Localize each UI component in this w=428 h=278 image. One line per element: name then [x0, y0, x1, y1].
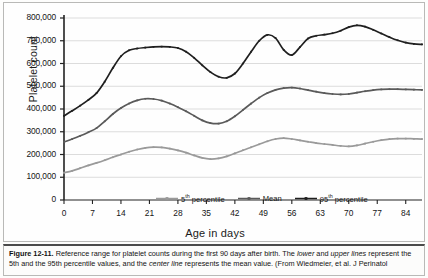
x-tick-label: 0 — [54, 208, 74, 218]
axis-lines — [64, 15, 422, 200]
legend-label: 95th percentile — [320, 193, 368, 204]
x-tick-label: 56 — [282, 208, 302, 218]
x-tick-label: 7 — [82, 208, 102, 218]
y-tick-label: 0 — [10, 194, 56, 204]
series-5th-percentile — [63, 137, 423, 173]
chart-legend: 5th percentileMean95th percentile — [156, 193, 368, 204]
x-tick-label: 84 — [396, 208, 416, 218]
x-tick-label: 42 — [225, 208, 245, 218]
x-tick-label: 28 — [168, 208, 188, 218]
legend-label: Mean — [263, 194, 282, 203]
gridlines — [64, 18, 422, 177]
figure-caption-box: Figure 12-11. Reference range for platel… — [3, 244, 425, 276]
series-mean — [63, 87, 423, 143]
legend-entry: Mean — [238, 194, 282, 203]
platelet-count-line-chart — [4, 3, 425, 242]
legend-line-swatch — [295, 195, 317, 202]
x-tick-label: 70 — [339, 208, 359, 218]
x-tick-label: 21 — [139, 208, 159, 218]
data-series-group — [63, 24, 423, 173]
x-tick-label: 63 — [310, 208, 330, 218]
figure-container: 0100,000200,000300,000400,000500,000600,… — [0, 0, 428, 278]
x-tick-label: 35 — [196, 208, 216, 218]
series-95th-percentile — [63, 24, 423, 116]
x-axis-title: Age in days — [4, 227, 425, 239]
x-tick-label: 49 — [253, 208, 273, 218]
legend-entry: 5th percentile — [156, 193, 225, 204]
x-tick-label: 14 — [111, 208, 131, 218]
x-tick-label: 77 — [367, 208, 387, 218]
y-tick-label: 200,000 — [10, 149, 56, 159]
y-axis-title: Platelet count — [27, 9, 39, 129]
chart-panel: 0100,000200,000300,000400,000500,000600,… — [3, 2, 425, 242]
y-tick-label: 100,000 — [10, 171, 56, 181]
legend-line-swatch — [156, 195, 178, 202]
legend-line-swatch — [238, 195, 260, 202]
figure-caption-text: Figure 12-11. Reference range for platel… — [9, 249, 419, 270]
legend-entry: 95th percentile — [295, 193, 368, 204]
legend-label: 5th percentile — [181, 193, 225, 204]
